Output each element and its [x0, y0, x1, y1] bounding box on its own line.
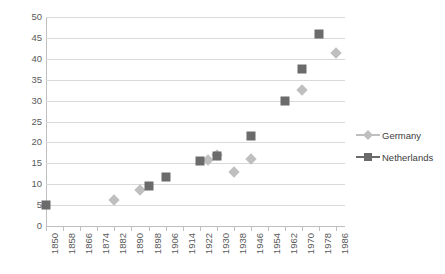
data-point-netherlands [281, 96, 290, 105]
legend-key-netherlands [356, 151, 380, 163]
chart-legend: Germany Netherlands [356, 124, 445, 168]
data-point-germany [297, 84, 308, 95]
x-tick-mark [285, 227, 286, 231]
legend-key-germany [356, 129, 380, 141]
x-tick-mark [80, 227, 81, 231]
data-point-netherlands [161, 172, 170, 181]
x-tick-mark [234, 227, 235, 231]
legend-label-germany: Germany [380, 130, 421, 141]
x-tick-mark [63, 227, 64, 231]
x-tick-label: 1858 [67, 233, 77, 254]
x-tick-label: 1850 [50, 233, 60, 254]
gridline [46, 59, 345, 60]
x-tick-label: 1962 [289, 233, 299, 254]
x-tick-mark [302, 227, 303, 231]
x-tick-label: 1978 [323, 233, 333, 254]
x-tick-label: 1946 [255, 233, 265, 254]
x-tick-label: 1890 [135, 233, 145, 254]
x-tick-mark [131, 227, 132, 231]
legend-item-germany[interactable]: Germany [356, 124, 445, 146]
x-tick-label: 1930 [221, 233, 231, 254]
x-tick-label: 1914 [187, 233, 197, 254]
x-tick-mark [97, 227, 98, 231]
y-tick-label: 5 [2, 200, 42, 210]
gridline [46, 80, 345, 81]
gridline [46, 101, 345, 102]
data-point-germany [331, 47, 342, 58]
y-tick-label: 45 [2, 33, 42, 43]
y-tick-label: 0 [2, 221, 42, 231]
legend-label-netherlands: Netherlands [380, 152, 433, 163]
y-tick-label: 10 [2, 179, 42, 189]
x-axis-tick-labels: 1850185818661874188218901898190619141922… [46, 227, 345, 274]
x-tick-mark [200, 227, 201, 231]
gridline [46, 122, 345, 123]
diamond-marker-icon [363, 130, 373, 140]
x-tick-mark [217, 227, 218, 231]
data-point-netherlands [42, 201, 51, 210]
x-tick-mark [46, 227, 47, 231]
x-tick-mark [183, 227, 184, 231]
legend-item-netherlands[interactable]: Netherlands [356, 146, 445, 168]
data-point-germany [109, 194, 120, 205]
data-point-netherlands [315, 29, 324, 38]
data-point-germany [228, 167, 239, 178]
y-tick-label: 40 [2, 54, 42, 64]
data-point-netherlands [144, 182, 153, 191]
gridline [46, 142, 345, 143]
data-point-netherlands [247, 132, 256, 141]
x-tick-label: 1986 [340, 233, 350, 254]
y-tick-label: 15 [2, 158, 42, 168]
plot-area [46, 17, 345, 226]
gridline [46, 205, 345, 206]
x-tick-mark [268, 227, 269, 231]
y-tick-label: 20 [2, 137, 42, 147]
x-tick-mark [114, 227, 115, 231]
square-marker-icon [364, 153, 372, 161]
x-tick-label: 1922 [204, 233, 214, 254]
x-tick-label: 1866 [84, 233, 94, 254]
x-tick-mark [319, 227, 320, 231]
gridline [46, 184, 345, 185]
x-tick-mark [149, 227, 150, 231]
x-tick-mark [166, 227, 167, 231]
y-axis-tick-labels: 05101520253035404550 [0, 17, 42, 227]
data-point-netherlands [298, 65, 307, 74]
y-tick-label: 35 [2, 75, 42, 85]
x-tick-label: 1954 [272, 233, 282, 254]
x-tick-label: 1874 [101, 233, 111, 254]
x-tick-mark [336, 227, 337, 231]
x-tick-mark [251, 227, 252, 231]
x-tick-label: 1898 [153, 233, 163, 254]
data-point-netherlands [195, 157, 204, 166]
scatter-chart: 05101520253035404550 1850185818661874188… [0, 0, 445, 274]
gridline [46, 38, 345, 39]
y-tick-label: 50 [2, 12, 42, 22]
gridline [46, 17, 345, 18]
x-tick-label: 1906 [170, 233, 180, 254]
y-tick-label: 25 [2, 117, 42, 127]
x-tick-label: 1938 [238, 233, 248, 254]
x-tick-label: 1882 [118, 233, 128, 254]
data-point-netherlands [212, 151, 221, 160]
x-tick-label: 1970 [306, 233, 316, 254]
y-tick-label: 30 [2, 96, 42, 106]
